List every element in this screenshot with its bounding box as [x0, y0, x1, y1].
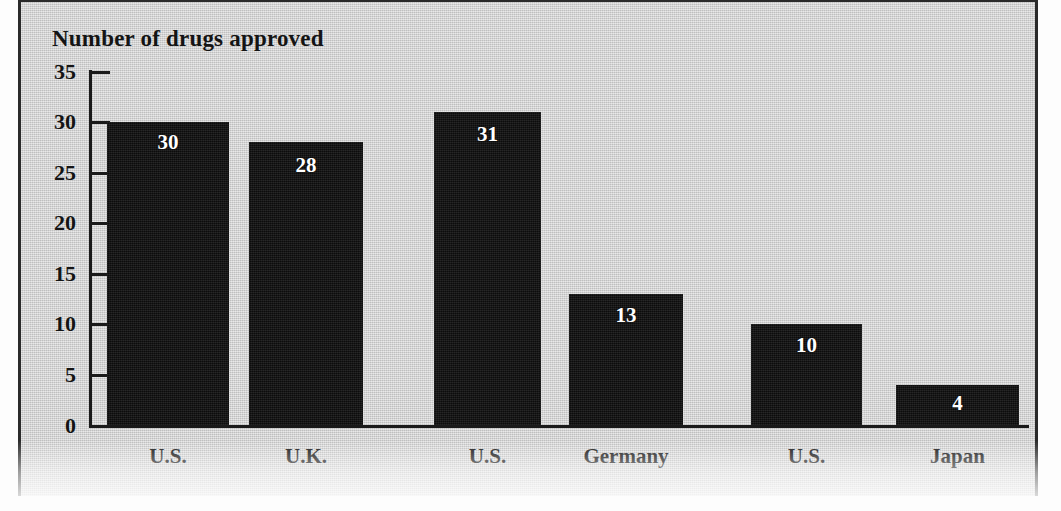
bar-3[interactable]	[434, 112, 541, 425]
chart-figure: Number of drugs approved 35 30 25 20 15 …	[0, 0, 1061, 511]
chart-title: Number of drugs approved	[52, 26, 324, 52]
x-category-label-3: U.S.	[434, 444, 541, 469]
bar-1[interactable]	[107, 122, 229, 425]
y-tick-label-15: 15	[30, 261, 76, 287]
y-tick-label-5: 5	[30, 362, 76, 388]
x-category-label-2: U.K.	[249, 444, 363, 469]
x-category-label-1: U.S.	[107, 444, 229, 469]
bar-value-5: 10	[751, 333, 862, 358]
bar-value-3: 31	[434, 122, 541, 147]
x-category-label-4: Germany	[569, 444, 683, 469]
y-tick-label-35: 35	[30, 59, 76, 85]
bar-2[interactable]	[249, 142, 363, 425]
bar-value-1: 30	[107, 130, 229, 155]
x-category-label-6: Japan	[896, 444, 1019, 469]
y-tick-label-20: 20	[30, 210, 76, 236]
x-axis-baseline	[89, 425, 1029, 428]
y-tick-label-30: 30	[30, 109, 76, 135]
y-tick-label-10: 10	[30, 311, 76, 337]
x-category-label-5: U.S.	[751, 444, 862, 469]
bar-value-6: 4	[896, 391, 1019, 416]
bar-value-4: 13	[569, 303, 683, 328]
y-tick-mark-35	[89, 71, 110, 74]
bar-chart-plot-area: Number of drugs approved 35 30 25 20 15 …	[0, 0, 1061, 511]
y-tick-label-25: 25	[30, 160, 76, 186]
y-tick-label-0: 0	[30, 413, 76, 439]
bar-value-2: 28	[249, 153, 363, 178]
